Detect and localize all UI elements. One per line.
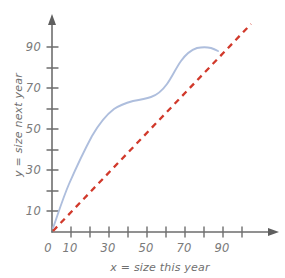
replacement-line-y-equals-x [53, 24, 251, 231]
y-tick-label-90: 90 [26, 40, 41, 54]
x-tick-label-50: 50 [138, 241, 153, 255]
y-axis-title: y = size next year [12, 72, 25, 178]
x-tick-label-70: 70 [176, 241, 191, 255]
x-tick-label-0: 0 [44, 241, 52, 255]
y-tick-label-30: 30 [26, 163, 41, 177]
y-axis-arrowhead [48, 14, 56, 25]
y-tick-label-10: 10 [26, 204, 41, 218]
chart-svg: 0 10 30 50 70 90 10 30 50 70 90 x = size… [0, 0, 285, 278]
y-tick-label-50: 50 [26, 122, 41, 136]
x-axis-title: x = size this year [109, 261, 211, 274]
y-tick-label-70: 70 [26, 81, 41, 95]
x-tick-label-10: 10 [62, 241, 77, 255]
x-tick-label-90: 90 [214, 241, 229, 255]
recruitment-curve [53, 47, 218, 228]
x-axis-arrowhead [268, 228, 279, 236]
x-tick-label-30: 30 [100, 241, 115, 255]
chart-container: 0 10 30 50 70 90 10 30 50 70 90 x = size… [0, 0, 285, 278]
